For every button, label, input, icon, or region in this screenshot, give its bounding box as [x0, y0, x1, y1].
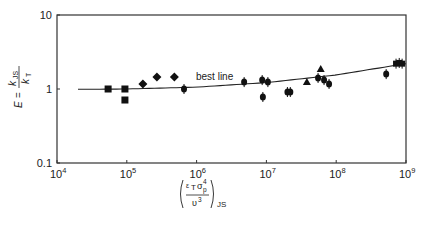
y-label-den: k: [20, 78, 31, 84]
chart: 1041051061071081090.1110 best line E = k…: [0, 0, 425, 225]
y-label-eq: =: [13, 92, 24, 98]
square-marker: [105, 86, 112, 93]
triangle-marker: [303, 78, 311, 85]
x-tick-label: 109: [399, 166, 415, 180]
square-marker: [121, 97, 128, 104]
cross-marker: [399, 61, 405, 67]
y-tick-label: 10: [40, 9, 52, 21]
circle-marker: [383, 71, 389, 78]
x-label-den-sup: 3: [198, 196, 202, 203]
circle-marker: [321, 77, 327, 84]
x-tick-label: 105: [120, 166, 136, 180]
diamond-marker: [152, 73, 161, 82]
circle-marker: [241, 79, 247, 86]
square-marker: [121, 86, 128, 93]
diamond-marker: [170, 73, 179, 82]
y-label-num: k: [7, 80, 18, 86]
best-line-label: best line: [196, 71, 234, 82]
x-label-eps: ε: [186, 182, 189, 189]
x-tick-label: 107: [259, 166, 275, 180]
diamond-marker: [138, 79, 147, 88]
x-tick-label: 104: [50, 166, 66, 180]
circle-marker: [260, 93, 266, 100]
best-line-curve: [78, 64, 406, 90]
x-label-sigma-sup: 4: [203, 178, 207, 185]
y-axis-label: E = k JS k T: [7, 66, 32, 108]
y-tick-label: 0.1: [37, 157, 52, 169]
circle-marker: [315, 74, 321, 81]
y-tick-label: 1: [46, 83, 52, 95]
y-label-num-sub: JS: [12, 71, 19, 80]
circle-marker: [287, 89, 293, 96]
x-tick-label: 108: [329, 166, 345, 180]
data-points: [105, 58, 406, 104]
circle-marker: [259, 77, 265, 84]
x-label-eps-sub: T: [191, 183, 196, 192]
circle-marker: [326, 80, 332, 87]
y-label-den-sub: T: [25, 72, 32, 77]
circle-marker: [265, 79, 271, 86]
x-axis-label: ε T σ 4 p υ 3 JS: [181, 178, 227, 209]
y-label-E: E: [13, 101, 24, 108]
x-label-sigma-sub: p: [203, 186, 207, 194]
x-label-den: υ: [192, 198, 197, 208]
tick-labels: 1041051061071081090.1110: [37, 9, 416, 180]
triangle-marker: [317, 65, 325, 72]
circle-marker: [181, 86, 187, 93]
x-label-outer-sub: JS: [217, 200, 226, 209]
